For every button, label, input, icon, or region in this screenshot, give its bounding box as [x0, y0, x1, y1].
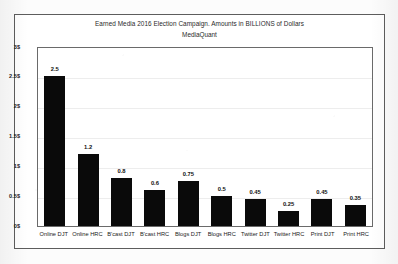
- bar-value-label: 0.45: [249, 189, 260, 195]
- bar-slot: 1.2: [71, 48, 104, 226]
- bar[interactable]: 1.2: [78, 154, 99, 226]
- x-axis-label: Twitter DJT: [239, 229, 273, 243]
- y-axis-label-2: 2$: [0, 103, 20, 109]
- bar-slot: 0.75: [172, 48, 205, 226]
- bar-slot: 0.35: [339, 48, 372, 226]
- bar[interactable]: 0.5: [211, 196, 232, 226]
- bar[interactable]: 0.8: [111, 178, 132, 226]
- bar-slot: 0.8: [105, 48, 138, 226]
- bar[interactable]: 0.75: [178, 181, 199, 226]
- y-axis-label-0: 3$: [0, 44, 20, 50]
- x-axis-label: Print HRC: [339, 229, 373, 243]
- y-axis-label-6: 0$: [0, 223, 20, 229]
- x-axis-label: Blogs HRC: [205, 229, 239, 243]
- x-axis-label: Twitter HRC: [272, 229, 306, 243]
- y-axis-label-4: 1$: [0, 163, 20, 169]
- chart-page: Earned Media 2016 Election Campaign. Amo…: [0, 0, 398, 264]
- bar-value-label: 1.2: [84, 144, 92, 150]
- bar-slot: 0.6: [138, 48, 171, 226]
- bar-slot: 0.5: [205, 48, 238, 226]
- x-axis-label: Online DJT: [37, 229, 71, 243]
- bar-series: 2.51.20.80.60.750.50.450.250.450.35: [38, 48, 372, 226]
- bar-value-label: 0.35: [350, 195, 361, 201]
- bar[interactable]: 0.6: [144, 190, 165, 226]
- bar-value-label: 0.6: [151, 180, 159, 186]
- bar-value-label: 2.5: [51, 66, 59, 72]
- x-axis-label: Blogs DJT: [171, 229, 205, 243]
- y-axis-label-5: 0.5$: [0, 193, 20, 199]
- bar-value-label: 0.8: [117, 168, 125, 174]
- bar[interactable]: 0.45: [245, 199, 266, 226]
- bar-value-label: 0.25: [283, 201, 294, 207]
- y-axis-label-3: 1.5$: [0, 133, 20, 139]
- x-axis-label: Print DJT: [306, 229, 340, 243]
- bar-slot: 2.5: [38, 48, 71, 226]
- bar-value-label: 0.75: [183, 171, 194, 177]
- bar-value-label: 0.5: [218, 186, 226, 192]
- chart-outer-frame: Earned Media 2016 Election Campaign. Amo…: [14, 14, 385, 249]
- x-axis-label: Online HRC: [71, 229, 105, 243]
- bar[interactable]: 0.25: [278, 211, 299, 226]
- x-axis-label: B'cast HRC: [138, 229, 172, 243]
- bar-slot: 0.25: [272, 48, 305, 226]
- chart-subtitle: MediaQuant: [15, 31, 384, 38]
- plot-area: 2.51.20.80.60.750.50.450.250.450.35: [37, 47, 373, 227]
- bar[interactable]: 0.45: [311, 199, 332, 226]
- y-axis-label-1: 2.5$: [0, 73, 20, 79]
- bar-value-label: 0.45: [316, 189, 327, 195]
- bar[interactable]: 2.5: [44, 76, 65, 226]
- bar[interactable]: 0.35: [345, 205, 366, 226]
- x-axis-labels: Online DJTOnline HRCB'cast DJTB'cast HRC…: [37, 229, 373, 243]
- chart-title: Earned Media 2016 Election Campaign. Amo…: [15, 20, 384, 27]
- x-axis-label: B'cast DJT: [104, 229, 138, 243]
- bar-slot: 0.45: [238, 48, 271, 226]
- bar-slot: 0.45: [305, 48, 338, 226]
